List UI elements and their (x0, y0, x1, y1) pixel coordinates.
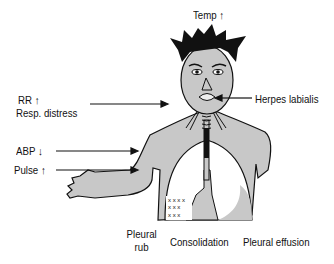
svg-text:x x x: x x x (168, 212, 180, 218)
label-resp-distress: Resp. distress (16, 107, 77, 120)
label-consolidation: Consolidation (170, 236, 229, 249)
svg-text:x x x x: x x x x (168, 197, 185, 203)
label-rr: RR ↑ (18, 94, 40, 107)
label-temp: Temp ↑ (193, 9, 224, 22)
label-abp: ABP ↓ (16, 145, 43, 158)
label-pulse: Pulse ↑ (14, 164, 46, 177)
label-pleural-effusion: Pleural effusion (243, 236, 310, 249)
svg-text:x x x: x x x (168, 204, 180, 210)
label-herpes-labialis: Herpes labialis (255, 93, 318, 106)
pneumonia-diagram: x x x x x x x x x x (0, 0, 334, 264)
label-pleural-rub-line2: rub (124, 241, 159, 254)
figure-illustration: x x x x x x x x x x (0, 0, 334, 264)
label-pleural-rub-line1: Pleural (124, 228, 159, 241)
label-pleural-rub: Pleural rub (124, 228, 159, 254)
